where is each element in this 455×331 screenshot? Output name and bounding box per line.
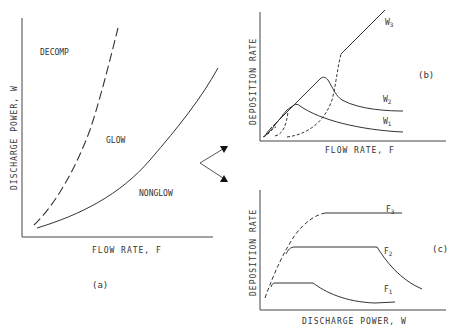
label-f1: F1 (384, 285, 393, 295)
arrow-down-head-icon (220, 175, 228, 182)
region-decomp-label: DECOMP (40, 48, 69, 57)
label-w1: W1 (383, 117, 392, 127)
region-glow-label: GLOW (106, 136, 125, 145)
label-w2: W2 (383, 95, 392, 105)
label-f2: F2 (384, 247, 393, 257)
panel-b: W3 W2 W1 (b) FLOW RATE, F DEPOSITION RAT… (249, 10, 446, 155)
panel-b-caption: (b) (418, 70, 434, 80)
label-w3: W3 (385, 18, 394, 28)
panel-a-decomp-boundary (34, 28, 118, 225)
panel-c: F3 F2 F1 (c) DISCHARGE POWER, W DEPOSITI… (249, 190, 448, 326)
arrow-down-line (200, 163, 223, 178)
curve-w3-onset (287, 54, 341, 137)
panel-a-caption: (a) (92, 280, 108, 290)
panel-b-x-label: FLOW RATE, F (325, 146, 395, 155)
label-f3: F3 (386, 205, 395, 215)
panel-b-y-label: DEPOSITION RATE (249, 38, 258, 125)
curve-w3 (341, 10, 385, 54)
panel-a-glow-boundary (37, 68, 218, 228)
arrow-up-head-icon (220, 146, 228, 153)
panel-c-y-label: DEPOSITION RATE (249, 209, 258, 296)
figure-canvas: DECOMP GLOW NONGLOW FLOW RATE, F DISCHAR… (0, 0, 455, 331)
panel-c-caption: (c) (432, 244, 448, 254)
curve-w2-onset (275, 112, 288, 136)
arrow-pair (200, 146, 228, 182)
region-nonglow-label: NONGLOW (139, 189, 173, 198)
panel-a: DECOMP GLOW NONGLOW FLOW RATE, F DISCHAR… (10, 18, 218, 290)
panel-a-x-label: FLOW RATE, F (92, 246, 162, 255)
curve-f1 (271, 283, 395, 303)
figure: DECOMP GLOW NONGLOW FLOW RATE, F DISCHAR… (0, 0, 455, 331)
panel-c-x-label: DISCHARGE POWER, W (302, 317, 407, 326)
arrow-up-line (200, 149, 223, 163)
panel-a-y-label: DISCHARGE POWER, W (10, 85, 19, 190)
